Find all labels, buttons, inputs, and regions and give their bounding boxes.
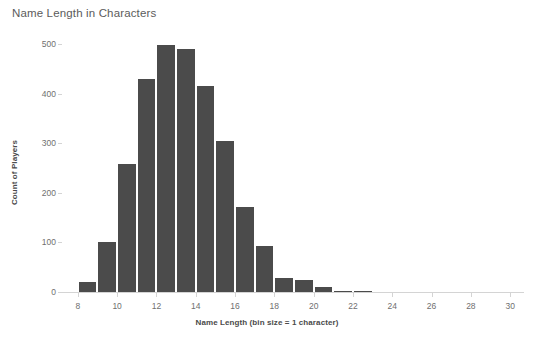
x-tick-label: 24 (388, 301, 397, 311)
bar[interactable] (117, 164, 137, 292)
bar[interactable] (196, 86, 216, 292)
x-axis-title: Name Length (bin size = 1 character) (0, 318, 534, 327)
bar-series (68, 44, 520, 292)
bar[interactable] (78, 282, 98, 292)
y-tick-mark (58, 143, 62, 144)
x-tick-mark (156, 293, 157, 297)
x-tick-label: 28 (466, 301, 475, 311)
x-tick-label: 8 (75, 301, 80, 311)
y-tick-mark (58, 193, 62, 194)
x-tick-mark (274, 293, 275, 297)
x-tick-mark (510, 293, 511, 297)
x-tick-label: 30 (505, 301, 514, 311)
x-tick-mark (392, 293, 393, 297)
bar[interactable] (137, 79, 157, 292)
x-tick-label: 12 (152, 301, 161, 311)
y-tick-label: 200 (42, 188, 56, 198)
y-tick-mark (58, 242, 62, 243)
bar[interactable] (156, 45, 176, 292)
x-tick-label: 22 (348, 301, 357, 311)
bar[interactable] (294, 280, 314, 292)
bar[interactable] (97, 242, 117, 292)
x-tick-mark (314, 293, 315, 297)
bar[interactable] (274, 278, 294, 292)
bar[interactable] (215, 141, 235, 292)
y-tick-mark (58, 44, 62, 45)
y-tick-label: 300 (42, 138, 56, 148)
x-tick-mark (471, 293, 472, 297)
x-tick-mark (235, 293, 236, 297)
bar[interactable] (235, 207, 255, 292)
x-tick-label: 20 (309, 301, 318, 311)
x-tick-label: 18 (270, 301, 279, 311)
x-tick-mark (196, 293, 197, 297)
x-axis: Name Length (bin size = 1 character) 810… (0, 292, 534, 339)
y-tick-mark (58, 94, 62, 95)
y-axis: Count of Players 0100200300400500 (0, 0, 68, 339)
x-tick-label: 16 (230, 301, 239, 311)
y-tick-label: 100 (42, 237, 56, 247)
bar[interactable] (255, 246, 275, 292)
y-tick-label: 400 (42, 89, 56, 99)
x-tick-mark (432, 293, 433, 297)
x-tick-label: 10 (112, 301, 121, 311)
plot-area (68, 44, 520, 292)
x-tick-label: 26 (427, 301, 436, 311)
x-tick-mark (353, 293, 354, 297)
x-tick-mark (117, 293, 118, 297)
bar[interactable] (176, 49, 196, 292)
y-axis-title: Count of Players (10, 113, 19, 233)
x-tick-mark (78, 293, 79, 297)
visualization-canvas: Name Length in Characters Count of Playe… (0, 0, 534, 339)
y-tick-label: 500 (42, 39, 56, 49)
x-tick-label: 14 (191, 301, 200, 311)
